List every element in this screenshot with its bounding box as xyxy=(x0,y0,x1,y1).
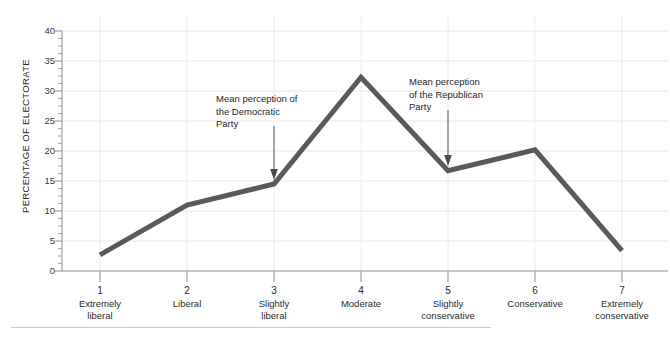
x-tick-number-4: 4 xyxy=(318,285,404,296)
annotation-arrow-democratic xyxy=(270,126,278,180)
annotation-republican-line1: Mean perception xyxy=(409,76,529,89)
y-major-ticks xyxy=(55,31,62,271)
chart-container: PERCENTAGE OF ELECTORATE 40 35 30 25 20 … xyxy=(0,0,670,339)
x-tick-label-2: Liberal xyxy=(139,298,235,310)
category-gridlines xyxy=(100,16,622,271)
gridlines xyxy=(62,31,668,241)
annotation-democratic: Mean perception of the Democratic Party xyxy=(216,93,336,131)
x-tick-number-2: 2 xyxy=(144,285,230,296)
annotation-democratic-line1: Mean perception of xyxy=(216,93,336,106)
x-tick-number-6: 6 xyxy=(492,285,578,296)
x-tick-label-3-line2: liberal xyxy=(226,310,322,322)
annotation-republican: Mean perception of the Republican Party xyxy=(409,76,529,114)
x-tick-label-6-line1: Conservative xyxy=(487,298,583,310)
annotation-republican-line3: Party xyxy=(409,101,529,114)
x-tick-label-7-line2: conservative xyxy=(574,310,670,322)
x-ticks xyxy=(100,271,622,282)
x-tick-label-7: Extremely conservative xyxy=(574,298,670,321)
annotation-democratic-line3: Party xyxy=(216,118,336,131)
x-tick-label-7-line1: Extremely xyxy=(574,298,670,310)
x-tick-label-6: Conservative xyxy=(487,298,583,310)
x-tick-number-7: 7 xyxy=(579,285,665,296)
x-tick-number-5: 5 xyxy=(405,285,491,296)
x-tick-label-4: Moderate xyxy=(313,298,409,310)
x-tick-number-3: 3 xyxy=(231,285,317,296)
x-tick-label-5-line1: Slightly xyxy=(400,298,496,310)
x-tick-label-2-line1: Liberal xyxy=(139,298,235,310)
annotation-democratic-line2: the Democratic xyxy=(216,106,336,119)
x-tick-number-1: 1 xyxy=(57,285,143,296)
x-tick-label-1-line1: Extremely xyxy=(52,298,148,310)
x-tick-label-1-line2: liberal xyxy=(52,310,148,322)
x-tick-label-3-line1: Slightly xyxy=(226,298,322,310)
x-tick-label-5-line2: conservative xyxy=(400,310,496,322)
x-tick-label-1: Extremely liberal xyxy=(52,298,148,321)
x-tick-label-3: Slightly liberal xyxy=(226,298,322,321)
x-tick-label-5: Slightly conservative xyxy=(400,298,496,321)
footer-divider xyxy=(11,327,491,328)
x-tick-label-4-line1: Moderate xyxy=(313,298,409,310)
annotation-republican-line2: of the Republican xyxy=(409,89,529,102)
annotation-arrow-republican xyxy=(444,110,452,166)
